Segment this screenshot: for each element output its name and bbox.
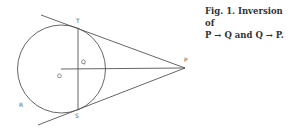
caption-line-2: P → Q and Q → P.	[205, 29, 295, 41]
label-o: O	[57, 72, 62, 79]
label-s: S	[75, 112, 79, 119]
caption-line-1: Fig. 1. Inversion of	[205, 5, 295, 29]
line-op	[61, 68, 185, 69]
label-r: R	[19, 101, 23, 108]
label-p: P	[184, 56, 188, 63]
label-q: Q	[81, 58, 86, 65]
inversion-diagram: T Q O P R S	[0, 0, 200, 136]
label-t: T	[75, 17, 80, 24]
figure-caption: Fig. 1. Inversion of P → Q and Q → P.	[205, 5, 295, 41]
tangent-line-top	[41, 15, 185, 68]
